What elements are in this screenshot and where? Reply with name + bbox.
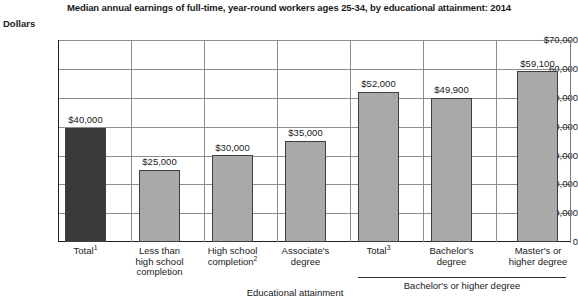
x-label-line: degree — [416, 257, 487, 268]
bar-value-masters-or-higher-degree: $59,100 — [507, 58, 568, 69]
x-label-total-overall: Total1 — [55, 246, 116, 257]
group-bracket-label: Bachelor's or higher degree — [358, 280, 566, 291]
category-separator-4 — [350, 40, 351, 242]
x-label-total-bachelors-or-higher: Total3 — [348, 246, 409, 257]
bar-bachelors-degree[interactable] — [431, 98, 472, 242]
x-label-line: degree — [270, 257, 341, 268]
x-label-line: Master's or — [500, 246, 576, 257]
x-label-bachelors-degree: Bachelor's degree — [416, 246, 487, 267]
bar-total-overall[interactable] — [65, 128, 106, 242]
x-label-high-school-completion: High school completion2 — [197, 246, 268, 267]
x-label-line: completion — [124, 267, 195, 278]
x-label-less-than-high-school: Less than high school completion — [124, 246, 195, 278]
x-label-line: Associate's — [270, 246, 341, 257]
x-label-masters-or-higher-degree: Master's or higher degree — [500, 246, 576, 267]
x-label-line: Total — [74, 245, 94, 256]
x-label-superscript: 3 — [387, 244, 391, 251]
x-label-line: higher degree — [500, 257, 576, 268]
bar-value-bachelors-degree: $49,900 — [421, 84, 482, 95]
x-label-line: completion2 — [197, 257, 268, 268]
plot-right-border — [570, 40, 571, 243]
bar-high-school-completion[interactable] — [212, 155, 253, 242]
category-separator-3 — [277, 40, 278, 242]
bar-total-bachelors-or-higher[interactable] — [358, 92, 399, 242]
x-axis-title: Educational attainment — [215, 287, 375, 298]
category-separator-2 — [204, 40, 205, 242]
y-axis-title: Dollars — [3, 18, 35, 30]
bar-value-associates-degree: $35,000 — [275, 127, 336, 138]
bar-associates-degree[interactable] — [285, 141, 326, 242]
bar-value-high-school-completion: $30,000 — [202, 142, 263, 153]
category-separator-6 — [496, 40, 497, 242]
bar-masters-or-higher-degree[interactable] — [517, 71, 558, 242]
category-separator-1 — [131, 40, 132, 242]
x-label-superscript: 1 — [94, 244, 98, 251]
category-separator-5 — [423, 40, 424, 242]
bar-value-total-bachelors-or-higher: $52,000 — [348, 78, 409, 89]
x-label-line: Total — [367, 245, 387, 256]
x-label-line: Bachelor's — [416, 246, 487, 257]
bar-value-less-than-high-school: $25,000 — [129, 156, 190, 167]
bar-less-than-high-school[interactable] — [139, 170, 180, 242]
x-label-line-text: completion — [208, 256, 254, 267]
x-label-associates-degree: Associate's degree — [270, 246, 341, 267]
group-bracket-line — [358, 277, 566, 278]
chart-title: Median annual earnings of full-time, yea… — [0, 2, 578, 14]
x-label-superscript: 2 — [254, 254, 258, 261]
bar-value-total-overall: $40,000 — [55, 114, 116, 125]
x-label-line: Less than — [124, 246, 195, 257]
